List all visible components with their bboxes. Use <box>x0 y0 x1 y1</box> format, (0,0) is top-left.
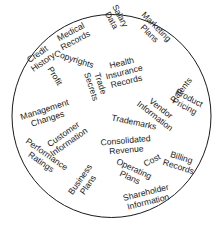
label-business-plans: BusinessPlans <box>66 162 102 202</box>
label-copyrights: Copyrights <box>53 48 95 70</box>
label-line: Cost <box>142 151 163 168</box>
label-profit: Profit <box>45 65 64 88</box>
sensitive-data-circle-diagram: CreditHistoryMedicalRecordsSalaryDataMar… <box>0 0 223 229</box>
label-group: CreditHistoryMedicalRecordsSalaryDataMar… <box>18 3 205 213</box>
label-consolidated-revenue: ConsolidatedRevenue <box>100 133 152 157</box>
label-line: Copyrights <box>53 48 95 70</box>
label-shareholder-information: ShareholderInformation <box>122 182 172 212</box>
label-salary-data: SalaryData <box>102 3 131 34</box>
label-line: Revenue <box>109 143 144 156</box>
label-line: Profit <box>45 65 64 88</box>
label-marketing-plans: MarketingPlans <box>133 10 174 51</box>
label-billing-records: BillingRecords <box>162 148 198 177</box>
label-medical-records: MedicalRecords <box>54 20 91 52</box>
label-health-insurance-records: HealthInsuranceRecords <box>102 53 146 91</box>
label-cost: Cost <box>142 151 163 168</box>
